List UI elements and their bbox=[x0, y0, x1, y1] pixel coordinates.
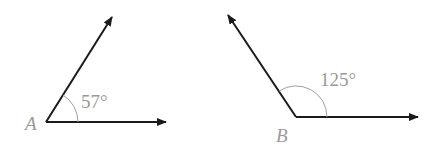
ray-b-slanted bbox=[228, 15, 296, 117]
angle-diagram: 57° A 125° B bbox=[0, 0, 429, 159]
angle-a-measure: 57° bbox=[81, 91, 108, 112]
arc-a bbox=[63, 95, 78, 122]
vertex-a-label: A bbox=[23, 113, 37, 134]
angle-a: 57° A bbox=[23, 17, 166, 134]
angle-b-measure: 125° bbox=[320, 69, 356, 90]
angle-b: 125° B bbox=[228, 15, 418, 146]
vertex-b-label: B bbox=[276, 125, 288, 146]
